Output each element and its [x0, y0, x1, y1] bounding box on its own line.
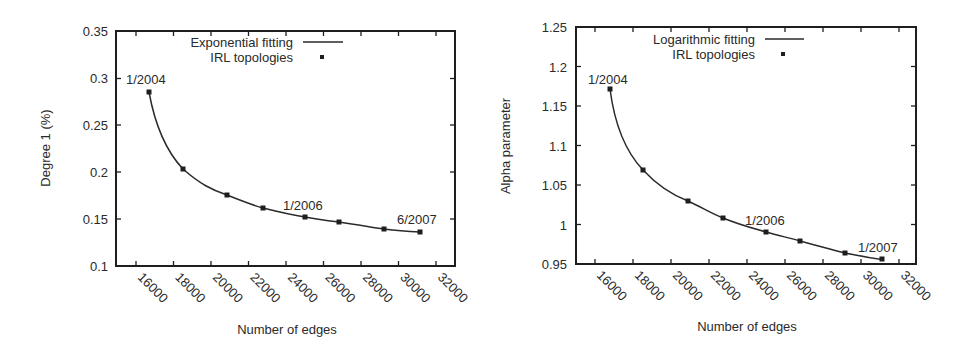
annotation-1-2006: 1/2006 [745, 213, 785, 228]
x-tick-label: 26000 [322, 270, 358, 306]
chart-alpha: 1.25 1.2 1.15 1.1 1.05 1 0.95 16000 1800… [498, 20, 934, 334]
y-tick-label: 1.15 [542, 99, 567, 114]
annotation-6-2007: 6/2007 [397, 212, 437, 227]
x-tick-label: 32000 [898, 268, 934, 304]
legend-marker-icon [781, 52, 785, 56]
x-axis-label: Number of edges [237, 322, 337, 337]
y-tick-label: 1.05 [542, 178, 567, 193]
y-tick-label: 0.35 [83, 24, 108, 39]
x-tick-label: 30000 [397, 270, 433, 306]
data-point [418, 230, 423, 235]
x-tick-label: 20000 [670, 268, 706, 304]
x-tick-label: 24000 [285, 270, 321, 306]
legend-label-fit: Exponential fitting [190, 35, 293, 50]
y-tick-label: 0.1 [90, 259, 108, 274]
x-tick-label: 18000 [172, 270, 208, 306]
data-point [147, 90, 152, 95]
annotation-1-2004: 1/2004 [126, 72, 166, 87]
chart-degree1: 0.35 0.3 0.25 0.2 0.15 0.1 16000 18000 2… [38, 24, 471, 337]
x-tick-label: 26000 [784, 268, 820, 304]
data-point [764, 230, 769, 235]
annotation-1-2004: 1/2004 [588, 72, 628, 87]
x-tick-label: 18000 [632, 268, 668, 304]
x-tick-label: 30000 [860, 268, 896, 304]
x-tick-label: 20000 [210, 270, 246, 306]
irl-topologies-points [608, 87, 885, 262]
x-axis-label: Number of edges [697, 319, 797, 334]
legend-label-points: IRL topologies [672, 47, 755, 62]
data-point [641, 168, 646, 173]
annotation-1-2007: 1/2007 [858, 240, 898, 255]
data-point [798, 239, 803, 244]
data-point [880, 257, 885, 262]
annotation-1-2006: 1/2006 [283, 198, 323, 213]
y-tick-label: 1 [560, 218, 567, 233]
y-axis-label: Alpha parameter [498, 97, 513, 194]
x-tick-label: 32000 [435, 270, 471, 306]
plot-frame [576, 27, 916, 264]
figure-canvas: 0.35 0.3 0.25 0.2 0.15 0.1 16000 18000 2… [0, 0, 969, 358]
x-tick-label: 22000 [708, 268, 744, 304]
legend-marker-icon [320, 55, 324, 59]
data-point [337, 220, 342, 225]
data-point [721, 216, 726, 221]
data-point [608, 87, 613, 92]
legend: Logarithmic fitting IRL topologies [653, 32, 804, 62]
x-axis: 16000 18000 20000 22000 24000 26000 2800… [594, 27, 934, 304]
y-tick-label: 0.3 [90, 71, 108, 86]
y-tick-label: 0.95 [542, 257, 567, 272]
x-tick-label: 22000 [247, 270, 283, 306]
x-tick-label: 16000 [135, 270, 171, 306]
data-point [843, 251, 848, 256]
legend: Exponential fitting IRL topologies [190, 35, 343, 65]
logarithmic-fit-curve [610, 89, 882, 260]
data-point [303, 215, 308, 220]
y-tick-label: 1.2 [549, 60, 567, 75]
y-tick-label: 0.25 [83, 118, 108, 133]
data-point [686, 199, 691, 204]
legend-label-fit: Logarithmic fitting [653, 32, 755, 47]
x-tick-label: 16000 [594, 268, 630, 304]
y-axis-label: Degree 1 (%) [38, 109, 53, 186]
data-point [225, 193, 230, 198]
data-point [261, 206, 266, 211]
y-tick-label: 0.2 [90, 165, 108, 180]
y-tick-label: 1.25 [542, 20, 567, 35]
x-tick-label: 28000 [360, 270, 396, 306]
data-point [181, 167, 186, 172]
y-tick-label: 0.15 [83, 212, 108, 227]
x-tick-label: 24000 [746, 268, 782, 304]
data-point [382, 227, 387, 232]
y-tick-label: 1.1 [549, 139, 567, 154]
x-tick-label: 28000 [822, 268, 858, 304]
legend-label-points: IRL topologies [210, 50, 293, 65]
